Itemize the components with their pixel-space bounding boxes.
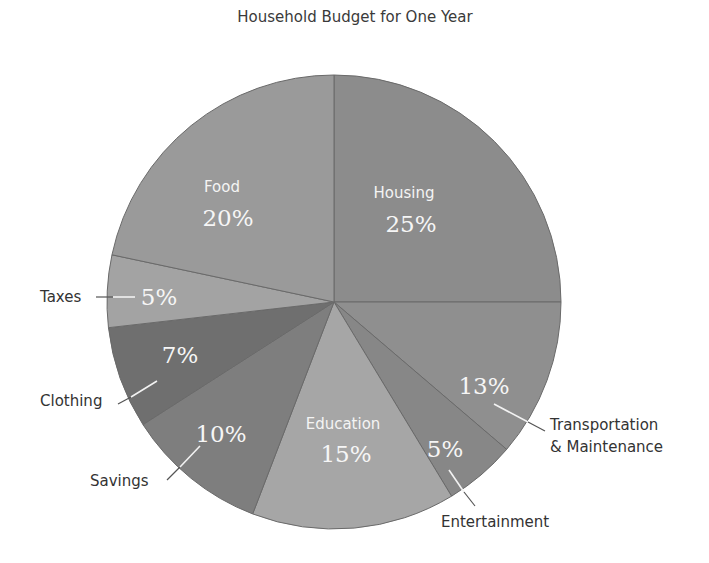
pct-education: 15% bbox=[320, 441, 371, 467]
pct-clothing: 7% bbox=[162, 342, 199, 368]
pct-transportation: 13% bbox=[458, 373, 509, 399]
label-housing: Housing bbox=[374, 184, 435, 202]
chart-title: Household Budget for One Year bbox=[237, 8, 473, 26]
pct-entertainment: 5% bbox=[427, 436, 464, 462]
label-food: Food bbox=[204, 178, 240, 196]
pct-savings: 10% bbox=[195, 421, 246, 447]
slice-housing bbox=[334, 75, 561, 302]
label-entertainment: Entertainment bbox=[441, 513, 549, 531]
label-transportation-line1: Transportation bbox=[549, 416, 658, 434]
label-clothing: Clothing bbox=[40, 392, 102, 410]
pct-taxes: 5% bbox=[141, 284, 178, 310]
label-taxes: Taxes bbox=[39, 288, 82, 306]
label-savings: Savings bbox=[90, 472, 149, 490]
pct-food: 20% bbox=[202, 205, 253, 231]
leader-savings-outer bbox=[167, 467, 180, 480]
label-education: Education bbox=[306, 415, 381, 433]
pie-chart: Household Budget for One Year Food 20% H… bbox=[0, 0, 709, 563]
leader-transportation-outer bbox=[528, 422, 545, 431]
label-transportation-line2: & Maintenance bbox=[550, 438, 663, 456]
pct-housing: 25% bbox=[385, 211, 436, 237]
leader-entertainment-outer bbox=[464, 492, 475, 506]
